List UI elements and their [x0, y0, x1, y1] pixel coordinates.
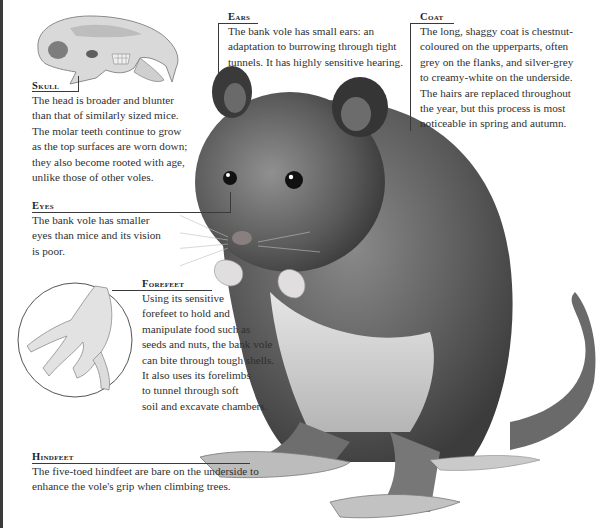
forefeet-text-line: manipulate food such as — [142, 322, 312, 337]
forefeet-text-line: forefeet to hold and — [142, 306, 312, 321]
eyes-text-line: The bank vole has smaller — [32, 213, 202, 228]
ears-text-line: The bank vole has small ears: an — [228, 24, 408, 39]
eyes-text-line: is poor. — [32, 244, 202, 259]
skull-illustration — [30, 8, 190, 88]
coat-leader-vertical — [410, 23, 411, 131]
coat-text-line: the year, but this process is most — [420, 101, 615, 116]
forefoot-inset-illustration — [15, 280, 135, 400]
coat-heading: Coat — [420, 11, 615, 23]
callout-ears: Ears The bank vole has small ears: an ad… — [228, 11, 408, 70]
forefeet-text-line: soil and excavate chambers. — [142, 399, 312, 414]
forefeet-text-line: can bite through tough shells. — [142, 353, 312, 368]
forefeet-text-line: It also uses its forelimbs — [142, 368, 312, 383]
forefeet-text-line: seeds and nuts, the bank vole — [142, 337, 312, 352]
hindfeet-text-line: The five-toed hindfeet are bare on the u… — [32, 464, 292, 479]
forefeet-heading: Forefeet — [142, 278, 312, 290]
ears-text-line: adaptation to burrowing through tight — [228, 39, 408, 54]
coat-text-line: noticeable in spring and autumn. — [420, 116, 615, 131]
coat-text-line: The long, shaggy coat is chestnut- — [420, 24, 615, 39]
ears-leader-vertical — [218, 23, 219, 73]
callout-hindfeet: Hindfeet The five-toed hindfeet are bare… — [32, 451, 292, 495]
eyes-heading: Eyes — [32, 200, 202, 212]
eyes-text-line: eyes than mice and its vision — [32, 228, 202, 243]
coat-text-line: The hairs are replaced throughout — [420, 86, 615, 101]
forefeet-text-line: Using its sensitive — [142, 291, 312, 306]
ears-heading: Ears — [228, 11, 408, 23]
callout-coat: Coat The long, shaggy coat is chestnut- … — [420, 11, 615, 132]
callout-forefeet: Forefeet Using its sensitive forefeet to… — [142, 278, 312, 414]
ears-text-line: tunnels. It has highly sensitive hearing… — [228, 55, 408, 70]
callout-eyes: Eyes The bank vole has smaller eyes than… — [32, 200, 202, 259]
coat-text-line: to creamy-white on the underside. — [420, 70, 615, 85]
hindfeet-heading: Hindfeet — [32, 451, 292, 463]
hindfeet-text-line: enhance the vole's grip when climbing tr… — [32, 479, 292, 494]
page-left-border — [0, 0, 3, 528]
eyes-leader-vertical — [230, 192, 231, 213]
coat-text-line: grey on the flanks, and silver-grey — [420, 55, 615, 70]
forefeet-text-line: to tunnel through soft — [142, 383, 312, 398]
coat-text-line: coloured on the upperparts, often — [420, 39, 615, 54]
